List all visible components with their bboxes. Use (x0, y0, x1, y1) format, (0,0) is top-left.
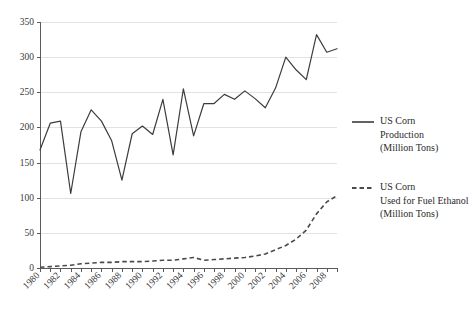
y-axis: 050100150200250300350 (20, 17, 41, 273)
y-tick-label: 100 (20, 193, 35, 203)
y-tick-label: 300 (20, 52, 35, 62)
y-tick-label: 250 (20, 87, 35, 97)
legend-label-2-line-2: Used for Fuel Ethanol (380, 195, 469, 206)
y-tick-label: 150 (20, 158, 35, 168)
x-tick-label: 2008 (308, 270, 329, 291)
legend-label-1-line-3: (Million Tons) (380, 142, 438, 154)
x-tick-label: 1994 (164, 270, 185, 291)
x-axis: 1980198219841986198819901992199419961998… (21, 268, 338, 291)
data-series (40, 35, 337, 268)
x-tick-label: 1992 (144, 270, 165, 291)
corn-production-line-chart: 050100150200250300350 198019821984198619… (0, 0, 473, 318)
x-tick-label: 2006 (287, 270, 308, 291)
legend-label-2-line-1: US Corn (380, 181, 415, 192)
x-tick-label: 1980 (21, 270, 42, 291)
legend-label-1-line-2: Production (380, 129, 424, 140)
x-tick-label: 1984 (62, 270, 83, 291)
chart-legend: US CornProduction(Million Tons)US CornUs… (352, 115, 469, 220)
gridlines (40, 23, 337, 269)
series-line-2 (40, 196, 337, 268)
x-tick-label: 1988 (103, 270, 124, 291)
legend-label-2-line-3: (Million Tons) (380, 208, 438, 220)
x-tick-label: 1998 (205, 270, 226, 291)
x-tick-label: 2002 (246, 270, 267, 291)
y-tick-label: 350 (20, 17, 35, 27)
chart-figure: 050100150200250300350 198019821984198619… (0, 0, 473, 318)
y-tick-label: 200 (20, 122, 35, 132)
series-line-1 (40, 35, 337, 194)
y-tick-label: 50 (25, 228, 35, 238)
x-tick-label: 1986 (82, 270, 103, 291)
x-tick-label: 1996 (185, 270, 206, 291)
legend-label-1-line-1: US Corn (380, 115, 415, 126)
x-tick-label: 2004 (267, 270, 288, 291)
x-tick-label: 1982 (41, 270, 62, 291)
x-tick-label: 2000 (226, 270, 247, 291)
x-tick-label: 1990 (123, 270, 144, 291)
